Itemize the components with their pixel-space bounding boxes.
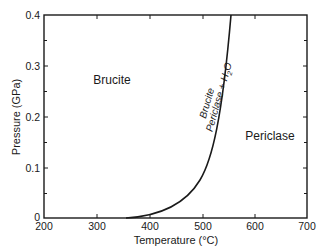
- region-label-brucite: Brucite: [93, 73, 131, 87]
- y-tick-0.3: 0.3: [25, 60, 40, 72]
- x-tick-labels: 200 300 400 500 600 700: [35, 220, 316, 232]
- region-label-periclase: Periclase: [245, 129, 295, 143]
- curve-label-suffix: O: [221, 61, 234, 72]
- y-tick-0.1: 0.1: [25, 162, 40, 174]
- x-tick-400: 400: [141, 220, 159, 232]
- x-tick-500: 500: [194, 220, 212, 232]
- x-tick-600: 600: [246, 220, 264, 232]
- phase-diagram-chart: 200 300 400 500 600 700 0 0.1 0.2 0.3 0.…: [0, 0, 331, 252]
- y-tick-0.2: 0.2: [25, 111, 40, 123]
- y-tick-0.4: 0.4: [25, 9, 40, 21]
- x-tick-300: 300: [88, 220, 106, 232]
- x-tick-700: 700: [298, 220, 316, 232]
- y-tick-labels: 0 0.1 0.2 0.3 0.4: [25, 9, 40, 224]
- x-axis-label: Temperature (°C): [134, 234, 218, 246]
- plot-frame: [44, 15, 307, 218]
- y-tick-0: 0: [34, 211, 40, 223]
- y-axis-label: Pressure (GPa): [10, 79, 22, 155]
- x-ticks: [97, 15, 255, 218]
- y-ticks: [44, 41, 307, 194]
